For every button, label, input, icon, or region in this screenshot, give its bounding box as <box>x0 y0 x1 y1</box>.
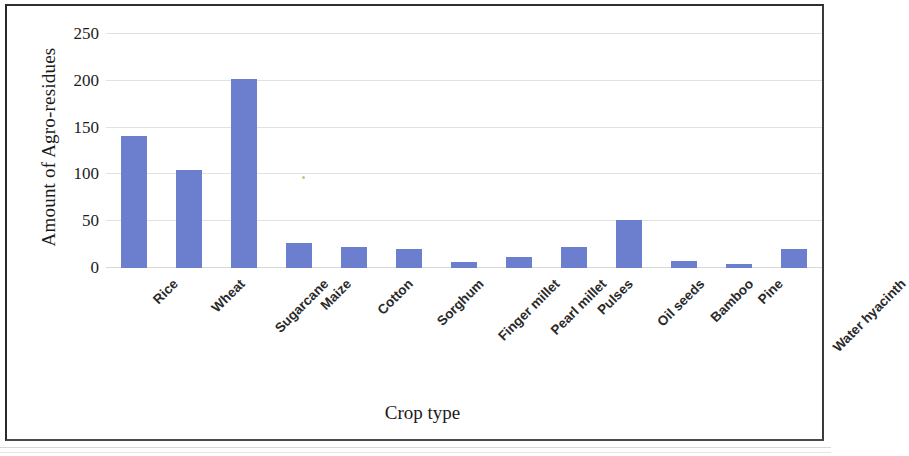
bar-slot <box>161 34 216 268</box>
bar <box>671 261 697 268</box>
x-tick-label: Oil seeds <box>655 276 708 329</box>
y-tick-label-250: 250 <box>47 24 99 44</box>
y-axis-tick-labels: 050100150200250 <box>47 6 99 296</box>
plot-area <box>106 34 822 268</box>
bar-slot <box>657 34 712 268</box>
x-tick-label: Water hyacinth <box>830 276 909 355</box>
bar-slot <box>602 34 657 268</box>
bar-slot <box>106 34 161 268</box>
bar <box>616 220 642 268</box>
x-axis-title: Crop type <box>7 402 838 424</box>
x-tick-label: Wheat <box>208 276 247 315</box>
x-axis-tick-labels: RiceWheatSugarcaneMaizeCottonSorghumFing… <box>106 272 822 397</box>
x-tick-label: Pine <box>755 276 786 307</box>
x-tick-label: Sorghum <box>434 276 487 329</box>
bar-slot <box>547 34 602 268</box>
bar <box>726 264 752 268</box>
bar-slot <box>436 34 491 268</box>
bar <box>176 170 202 268</box>
bar-slot <box>271 34 326 268</box>
bar-slot <box>326 34 381 268</box>
x-tick-label: Cotton <box>374 276 415 317</box>
figure-frame: Amount of Agro-residues 050100150200250 … <box>5 4 824 441</box>
bar-slot <box>712 34 767 268</box>
bar-slot <box>216 34 271 268</box>
bar <box>396 249 422 268</box>
bar <box>451 262 477 268</box>
y-tick-label-150: 150 <box>47 118 99 138</box>
y-tick-label-0: 0 <box>47 258 99 278</box>
scan-artifact-speck <box>302 176 305 179</box>
bar-slot <box>767 34 822 268</box>
bar <box>781 249 807 268</box>
bar-slot <box>381 34 436 268</box>
bar <box>506 257 532 268</box>
x-tick-label: Rice <box>150 276 181 307</box>
bar <box>231 79 257 268</box>
bar <box>341 247 367 268</box>
x-tick-label: Finger millet <box>495 276 562 343</box>
bar <box>286 243 312 268</box>
bar <box>121 136 147 268</box>
bar <box>561 247 587 268</box>
page-edge-line-secondary <box>0 452 831 453</box>
y-tick-label-50: 50 <box>47 211 99 231</box>
y-tick-label-100: 100 <box>47 164 99 184</box>
x-tick-label: Bamboo <box>708 276 757 325</box>
page-edge-line <box>0 447 831 448</box>
y-tick-label-200: 200 <box>47 71 99 91</box>
bar-slot <box>492 34 547 268</box>
